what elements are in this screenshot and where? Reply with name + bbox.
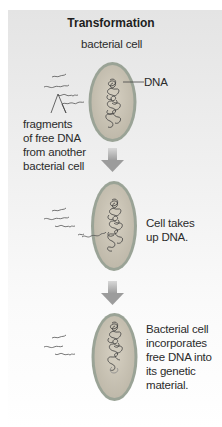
down-arrow-icon bbox=[101, 148, 124, 172]
free-dna-fragments-3 bbox=[44, 335, 75, 355]
free-dna-fragments-2 bbox=[44, 208, 84, 235]
transformation-illustration bbox=[0, 0, 222, 427]
bacterial-cell-3 bbox=[92, 313, 138, 401]
bacterial-cell-1 bbox=[89, 62, 145, 142]
bacterial-cell-2 bbox=[82, 181, 137, 271]
down-arrow-icon bbox=[101, 281, 124, 305]
free-dna-fragments-1 bbox=[44, 74, 84, 113]
